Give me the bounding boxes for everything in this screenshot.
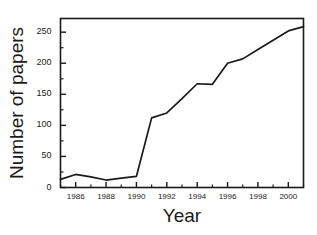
x-tick-label: 2000 bbox=[273, 192, 303, 201]
y-tick-label: 0 bbox=[28, 182, 52, 192]
x-tick-label: 1994 bbox=[182, 192, 212, 201]
y-tick-label: 250 bbox=[28, 26, 52, 36]
x-tick-label: 1990 bbox=[121, 192, 151, 201]
x-tick-label: 1986 bbox=[61, 192, 91, 201]
y-axis-title: Number of papers bbox=[6, 8, 28, 198]
x-tick-label: 1988 bbox=[91, 192, 121, 201]
y-tick-label: 200 bbox=[28, 57, 52, 67]
chart-figure: Number of papers Year 050100150200250 19… bbox=[0, 0, 317, 235]
y-tick-label: 50 bbox=[28, 150, 52, 160]
x-axis-title: Year bbox=[60, 205, 304, 227]
x-tick-label: 1998 bbox=[243, 192, 273, 201]
x-tick-label: 1992 bbox=[152, 192, 182, 201]
y-tick-label: 100 bbox=[28, 119, 52, 129]
x-tick-label: 1996 bbox=[213, 192, 243, 201]
y-tick-label: 150 bbox=[28, 88, 52, 98]
